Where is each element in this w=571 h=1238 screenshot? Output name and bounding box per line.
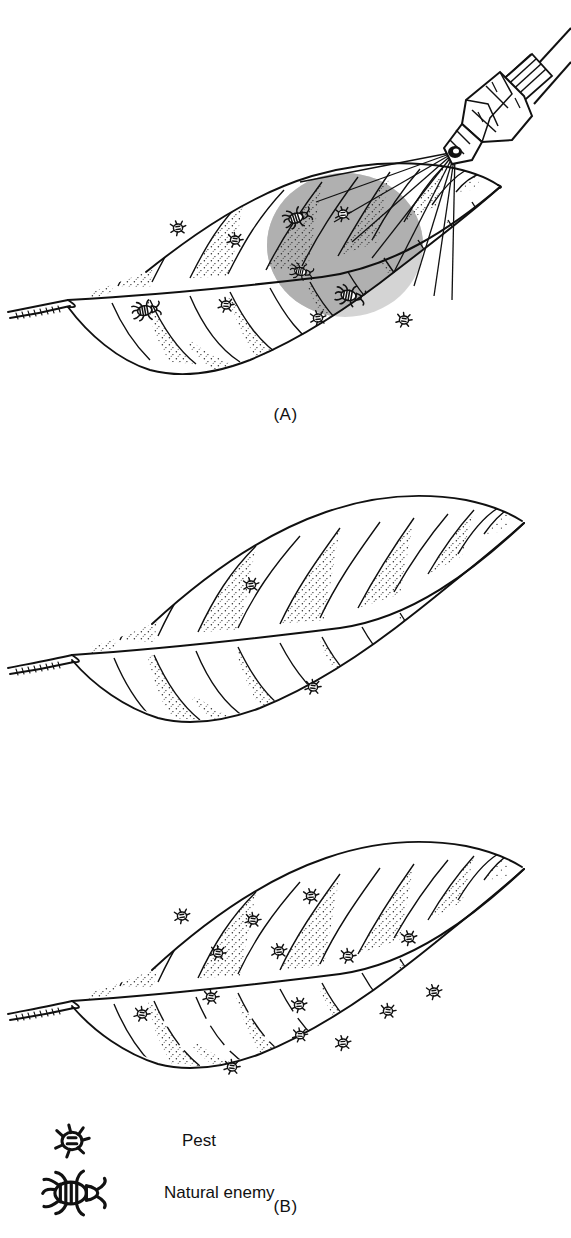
leaf-b [8, 496, 524, 722]
panel-c: (C) [0, 790, 571, 1120]
pest-icon [48, 1115, 130, 1167]
pest-marker [380, 1003, 397, 1019]
pest-marker [305, 679, 322, 695]
legend-item-natural-enemy: Natural enemy [40, 1167, 275, 1219]
legend: Pest [0, 1105, 571, 1238]
pest-marker [271, 943, 288, 959]
panel-a-label: (A) [0, 405, 571, 425]
natural-enemy-icon [40, 1167, 122, 1219]
panel-c-illustration [0, 790, 571, 1120]
pest-marker [426, 984, 443, 1000]
pest-marker [169, 220, 187, 237]
pest-marker [303, 888, 320, 904]
pest-marker [203, 989, 220, 1005]
panel-a-illustration [0, 0, 571, 440]
legend-label-natural-enemy: Natural enemy [164, 1183, 275, 1203]
panel-b: (B) [0, 440, 571, 790]
legend-item-pest: Pest [48, 1115, 216, 1167]
pest-marker [218, 297, 235, 313]
pest-marker [395, 312, 413, 329]
pest-marker [173, 908, 191, 925]
pest-marker [340, 948, 357, 964]
pest-marker [401, 930, 418, 947]
spray-nozzle-icon [444, 28, 571, 164]
pest-resurgence-figure: (A) [0, 0, 571, 1238]
pest-marker [134, 1006, 151, 1023]
panel-a: (A) [0, 0, 571, 440]
legend-label-pest: Pest [182, 1131, 216, 1151]
panel-b-illustration [0, 440, 571, 790]
pest-marker [292, 1028, 308, 1043]
leaf-c [8, 842, 524, 1068]
pest-marker [335, 1035, 352, 1051]
pest-marker [224, 1059, 241, 1075]
